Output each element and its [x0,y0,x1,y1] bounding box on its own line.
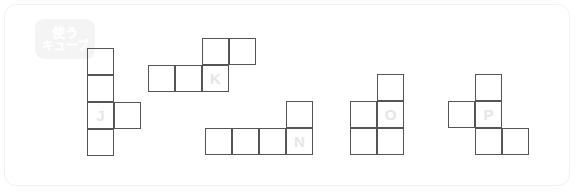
fold-seam-vertical [377,131,378,152]
fold-seam-vertical [114,105,115,126]
shape-cell [377,101,404,128]
shape-cell [114,102,141,129]
fold-seam-horizontal [90,75,111,76]
shape-cell [175,65,202,92]
shape-cell [205,128,232,155]
shape-cell [259,128,286,155]
fold-seam-vertical [286,131,287,152]
fold-seam-horizontal [90,102,111,103]
puzzle-card: 使う キューブ JKNOP [4,4,570,186]
shape-cell [202,38,229,65]
shape-cell [502,128,529,155]
fold-seam-vertical [475,104,476,125]
shape-cell [229,38,256,65]
shape-cell [350,101,377,128]
fold-seam-vertical [259,131,260,152]
fold-seam-vertical [502,131,503,152]
fold-seam-vertical [229,41,230,62]
use-cube-badge: 使う キューブ [35,19,95,59]
badge-line-1: 使う [52,26,78,40]
shape-cell [448,101,475,128]
fold-seam-vertical [175,68,176,89]
shape-cell [377,74,404,101]
shape-cell [286,101,313,128]
shape-cell [202,65,229,92]
fold-seam-horizontal [478,101,499,102]
fold-seam-horizontal [478,128,499,129]
fold-seam-horizontal [380,101,401,102]
fold-seam-horizontal [380,128,401,129]
shape-cell [475,128,502,155]
shape-cell [87,48,114,75]
shape-cell [232,128,259,155]
shape-cell [286,128,313,155]
fold-seam-vertical [232,131,233,152]
shape-cell [350,128,377,155]
fold-seam-vertical [202,68,203,89]
fold-seam-horizontal [289,128,310,129]
shape-cell [475,74,502,101]
fold-seam-vertical [377,104,378,125]
fold-seam-horizontal [353,128,374,129]
fold-seam-horizontal [205,65,226,66]
shape-cell [87,102,114,129]
fold-seam-horizontal [90,129,111,130]
shape-cell [87,75,114,102]
shape-cell [148,65,175,92]
shape-cell [377,128,404,155]
shape-cell [87,129,114,156]
shape-cell [475,101,502,128]
badge-line-2: キューブ [42,40,89,53]
